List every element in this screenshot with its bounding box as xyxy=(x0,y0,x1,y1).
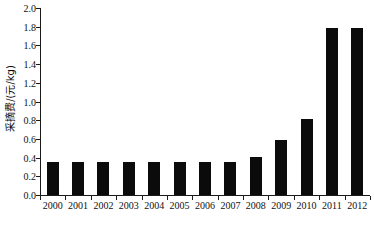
y-tick-mark xyxy=(36,139,40,140)
bar xyxy=(224,162,236,195)
y-tick-label: 0.2 xyxy=(24,171,37,182)
x-tick-label: 2011 xyxy=(322,200,342,211)
y-tick-label: 1.6 xyxy=(24,40,37,51)
x-tick-label: 2006 xyxy=(195,200,215,211)
y-tick-label: 0.6 xyxy=(24,133,37,144)
y-tick-mark xyxy=(36,27,40,28)
bar-series xyxy=(40,8,370,196)
bar xyxy=(250,157,262,195)
y-tick-label: 0.8 xyxy=(24,115,37,126)
bar xyxy=(148,162,160,195)
bar xyxy=(123,162,135,195)
y-axis-tick-labels: 0.00.20.40.60.81.01.21.41.61.82.0 xyxy=(16,0,40,196)
y-tick-mark xyxy=(36,64,40,65)
bar xyxy=(275,140,287,195)
bar xyxy=(47,162,59,195)
y-tick-label: 1.2 xyxy=(24,77,37,88)
x-tick-label: 2002 xyxy=(93,200,113,211)
y-tick-mark xyxy=(36,83,40,84)
bar xyxy=(301,119,313,195)
y-tick-mark xyxy=(36,158,40,159)
x-tick-label: 2010 xyxy=(297,200,317,211)
x-tick-label: 2003 xyxy=(119,200,139,211)
x-tick-label: 2000 xyxy=(43,200,63,211)
y-tick-label: 2.0 xyxy=(24,3,37,14)
bar xyxy=(351,28,363,195)
y-tick-label: 0.4 xyxy=(24,152,37,163)
y-tick-mark xyxy=(36,45,40,46)
bar xyxy=(326,28,338,195)
x-tick-label: 2005 xyxy=(170,200,190,211)
y-axis-title-text: 采摘费/(元/kg) xyxy=(2,65,17,132)
bar xyxy=(97,162,109,195)
x-tick-label: 2007 xyxy=(220,200,240,211)
bar xyxy=(174,162,186,195)
y-tick-label: 1.8 xyxy=(24,21,37,32)
x-tick-label: 2004 xyxy=(144,200,164,211)
y-tick-mark xyxy=(36,8,40,9)
y-tick-mark xyxy=(36,176,40,177)
x-tick-mark xyxy=(370,196,371,200)
x-axis-tick-labels: 2000200120022003200420052006200720082009… xyxy=(40,200,370,220)
x-tick-label: 2001 xyxy=(68,200,88,211)
y-tick-mark xyxy=(36,120,40,121)
plot-area xyxy=(40,8,370,196)
y-tick-label: 0.0 xyxy=(24,190,37,201)
y-tick-label: 1.4 xyxy=(24,59,37,70)
bar xyxy=(72,162,84,195)
bar-chart-figure: 采摘费/(元/kg) 0.00.20.40.60.81.01.21.41.61.… xyxy=(0,0,374,229)
y-tick-mark xyxy=(36,102,40,103)
x-tick-label: 2008 xyxy=(246,200,266,211)
bar xyxy=(199,162,211,195)
x-tick-label: 2009 xyxy=(271,200,291,211)
x-tick-label: 2012 xyxy=(347,200,367,211)
y-tick-label: 1.0 xyxy=(24,96,37,107)
